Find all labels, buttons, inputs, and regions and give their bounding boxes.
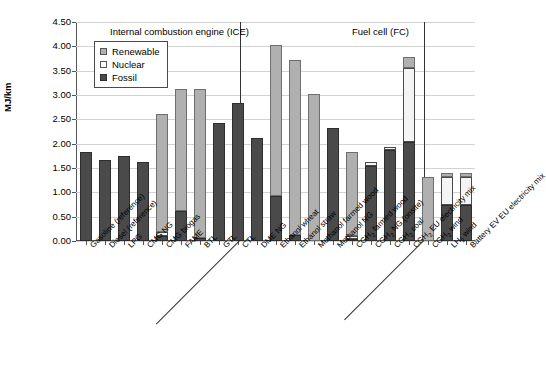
bar-segment-fossil [213,123,225,241]
y-tick-label: 4.50 [37,17,71,27]
bar-segment-renew [289,60,301,236]
y-tick-label: 2.50 [37,114,71,124]
bar-segment-fossil [232,103,244,241]
group-divider-rule-1 [344,240,424,320]
bar-9 [251,138,263,241]
bar-5 [175,89,187,241]
bar-segment-renew [156,114,168,231]
bar-10 [270,45,282,241]
bar-0 [80,152,92,241]
bar-segment-renew [270,45,282,196]
y-tick-label: 3.50 [37,66,71,76]
y-axis-title: MJ/km [2,82,13,112]
y-tick-label: 2.00 [37,139,71,149]
y-tick-label: 4.00 [37,41,71,51]
y-tick-label: 1.00 [37,187,71,197]
bar-segment-fossil [80,152,92,241]
bar-segment-renew [175,89,187,211]
group-divider-rule-0 [156,240,240,324]
y-tick-label: 3.00 [37,90,71,100]
bar-7 [213,123,225,241]
x-axis-labels: Gasoline (reference)Diesel (reference)LP… [0,241,495,368]
bar-segment-renew [403,57,415,68]
y-tick-label: 1.50 [37,163,71,173]
bar-segment-nuclear [441,177,453,205]
y-tick-label: 0.50 [37,212,71,222]
bar-segment-nuclear [403,68,415,142]
bar-segment-fossil [251,138,263,241]
bar-8 [232,103,244,241]
x-axis-label-20: Battery EV EU electricity mix [469,172,546,250]
bar-11 [289,60,301,242]
